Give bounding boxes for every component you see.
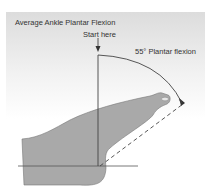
foot-silhouette: [22, 93, 170, 185]
angle-label: 55° Plantar flexion: [135, 47, 196, 56]
start-arrowhead-icon: [96, 46, 101, 52]
toenail: [162, 97, 169, 101]
ankle-plantar-flexion-diagram: [0, 0, 211, 190]
diagram-title: Average Ankle Plantar Flexion: [15, 18, 115, 27]
arc-arrowhead-icon: [179, 98, 185, 106]
start-label: Start here: [83, 30, 116, 39]
